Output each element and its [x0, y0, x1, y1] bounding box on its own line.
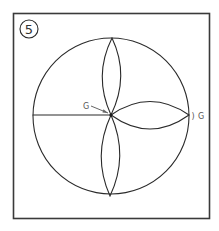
- center-label: G: [83, 102, 89, 111]
- right-petal: [111, 102, 189, 130]
- step-number-badge: 5: [20, 20, 38, 38]
- diagram-canvas: 5 G ) G: [0, 0, 219, 231]
- center-label-arrow: [91, 106, 108, 113]
- arrow-head-icon: [103, 109, 109, 113]
- right-mark: ): [191, 112, 194, 121]
- right-label: G: [198, 112, 204, 121]
- top-petal: [102, 38, 121, 115]
- center-point: [109, 113, 112, 116]
- step-number: 5: [25, 22, 33, 37]
- bottom-petal: [101, 115, 120, 196]
